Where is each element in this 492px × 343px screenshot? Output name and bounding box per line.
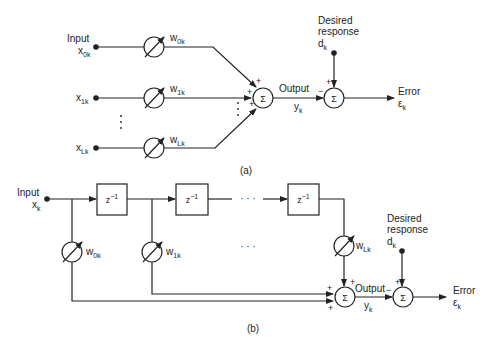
weight-wL-icon <box>334 236 354 256</box>
input-xL-label: xLk <box>76 142 89 155</box>
input-x0-label: x0k <box>78 45 91 58</box>
minus-sign: − <box>318 86 323 96</box>
desired-label: Desired <box>318 15 352 26</box>
error-label: Error <box>398 86 421 97</box>
input-x1-label: x1k <box>76 92 89 105</box>
output-label: Output <box>279 83 309 94</box>
weight-w1-label: w1k <box>165 246 181 259</box>
output-y-label: yk <box>294 101 303 114</box>
svg-text:Σ: Σ <box>260 94 266 104</box>
plus-sign: + <box>395 277 400 287</box>
desired-label: response <box>318 26 360 37</box>
summing-junction-error-b: Σ <box>393 287 413 307</box>
weight-wL-label: wLk <box>355 240 371 253</box>
plus-sign: + <box>328 303 333 313</box>
summing-junction-output-b: Σ <box>335 287 355 307</box>
input-xk-label: xk <box>32 199 41 212</box>
desired-d-label: dk <box>318 38 328 51</box>
input-label-a: Input <box>67 33 89 44</box>
weight-w1-icon <box>142 242 162 262</box>
weight-w0-icon <box>144 37 164 57</box>
summing-junction-error: Σ <box>324 88 344 108</box>
weight-wL-label: wLk <box>169 134 185 147</box>
summing-junction-output: Σ <box>253 88 273 108</box>
weight-w1-icon <box>144 88 164 108</box>
weight-w0-icon <box>62 242 82 262</box>
diagram-a: Input x0k x1k xLk w0k w1k wLk <box>67 15 421 176</box>
weight-w0-label: w0k <box>169 32 185 45</box>
weight-w0-label: w0k <box>85 246 101 259</box>
plus-sign: + <box>327 283 332 293</box>
caption-a: (a) <box>240 165 252 176</box>
plus-sign: + <box>256 76 261 86</box>
plus-sign: + <box>247 87 252 97</box>
minus-sign: − <box>386 285 391 295</box>
diagram-b: Input xk z−1 z−1 · · · z−1 w0k w1k · · · <box>17 184 476 334</box>
desired-d-label-b: dk <box>387 236 397 249</box>
error-epsilon-label-b: εk <box>453 297 461 310</box>
adaptive-linear-combiner-figure: Input x0k x1k xLk w0k w1k wLk <box>0 0 492 343</box>
output-label-b: Output <box>355 283 385 294</box>
plus-sign: + <box>326 77 331 87</box>
ellipsis: · · · <box>240 193 256 204</box>
ellipsis: · · · <box>240 241 256 252</box>
weight-wL-icon <box>144 138 164 158</box>
desired-label-b: Desired <box>387 213 421 224</box>
error-epsilon-label: εk <box>398 98 406 111</box>
svg-text:Σ: Σ <box>400 293 406 303</box>
branch-line-0 <box>96 47 256 87</box>
weight-w1-label: w1k <box>169 83 185 96</box>
svg-text:Σ: Σ <box>331 94 337 104</box>
input-label-b: Input <box>17 187 39 198</box>
svg-text:Σ: Σ <box>342 293 348 303</box>
plus-sign: + <box>249 99 254 109</box>
caption-b: (b) <box>247 323 259 334</box>
output-y-label-b: yk <box>364 300 373 313</box>
error-label-b: Error <box>453 285 476 296</box>
desired-label-b: response <box>387 224 429 235</box>
